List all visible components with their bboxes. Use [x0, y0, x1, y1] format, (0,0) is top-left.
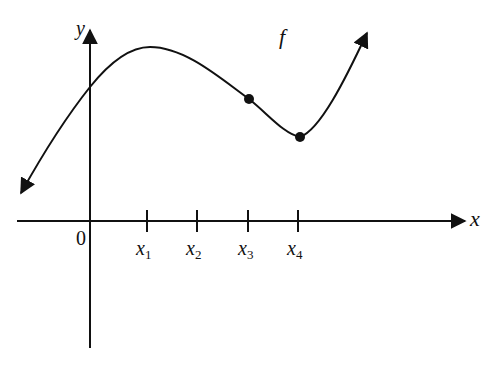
origin-label: 0	[76, 228, 86, 248]
graph-svg	[0, 0, 487, 371]
point-x3	[244, 94, 254, 104]
tick-sub: 2	[195, 247, 202, 262]
function-graph: f y x 0 x1 x2 x3 x4	[0, 0, 487, 371]
tick-base: x	[186, 237, 195, 259]
curve-f	[21, 33, 367, 193]
tick-label-x3: x3	[238, 238, 253, 261]
tick-sub: 4	[296, 247, 303, 262]
tick-base: x	[287, 237, 296, 259]
tick-label-x2: x2	[186, 238, 201, 261]
point-x4	[295, 132, 305, 142]
tick-base: x	[238, 237, 247, 259]
tick-label-x4: x4	[287, 238, 302, 261]
tick-sub: 3	[247, 247, 254, 262]
tick-sub: 1	[145, 247, 152, 262]
x-axis-label: x	[470, 208, 480, 230]
y-axis-label: y	[76, 18, 85, 38]
tick-label-x1: x1	[136, 238, 151, 261]
tick-base: x	[136, 237, 145, 259]
function-label: f	[279, 26, 285, 48]
